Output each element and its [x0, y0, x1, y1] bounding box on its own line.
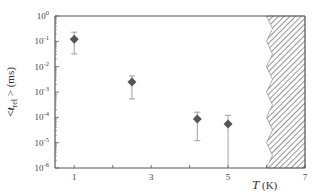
hatch-area: [267, 16, 305, 168]
chart: 10010-110-210-310-410-510-6 1357 T (K) <…: [0, 0, 321, 196]
data-point: [127, 76, 136, 99]
data-points: [70, 32, 233, 168]
y-tick-label: 10-2: [35, 60, 49, 72]
y-axis-label: <trel > (ms): [4, 67, 19, 117]
y-tick-label: 10-1: [35, 34, 49, 46]
diamond-marker: [224, 119, 233, 128]
diamond-marker: [70, 35, 79, 44]
data-point: [70, 32, 79, 54]
diamond-marker: [193, 114, 202, 123]
x-axis-label: T (K): [252, 177, 278, 192]
x-tick-label: 7: [303, 172, 308, 182]
x-tick-label: 5: [226, 172, 231, 182]
y-tick-label: 10-4: [35, 110, 50, 122]
y-tick-label: 10-3: [35, 85, 49, 97]
data-point: [224, 115, 233, 168]
y-tick-label: 10-5: [35, 136, 49, 148]
x-tick-label: 3: [149, 172, 154, 182]
hatched-region: [267, 16, 305, 168]
y-tick-label: 100: [37, 9, 49, 21]
x-tick-label: 1: [72, 172, 77, 182]
diamond-marker: [127, 77, 136, 86]
y-tick-label: 10-6: [35, 161, 50, 173]
data-point: [193, 112, 202, 140]
